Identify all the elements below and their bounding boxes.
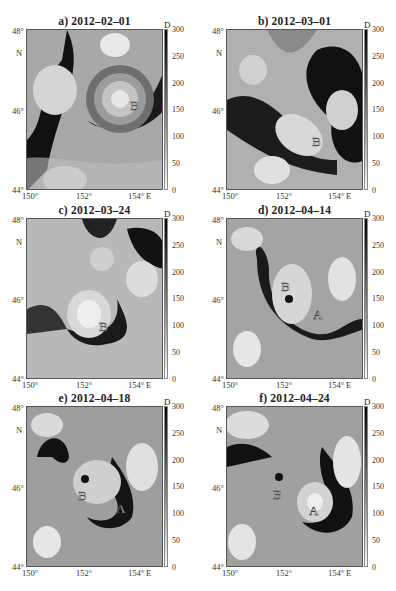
cb-tick: 250 [372, 242, 384, 250]
eddy-label: B [312, 134, 321, 149]
x-unit: E [346, 568, 351, 578]
colorbar [364, 406, 368, 567]
map-c: B [26, 218, 163, 379]
eddy-label: A [313, 307, 323, 322]
y-tick: 48° [212, 403, 224, 413]
map-e: B A [26, 406, 163, 567]
y-tick: 46° [212, 106, 224, 116]
y-tick: 46° [12, 106, 24, 116]
panel-f: f) 2012–04–24 B A D 300 250 200 150 100 … [200, 391, 396, 581]
cb-tick: 0 [372, 187, 376, 195]
cb-tick: 200 [172, 80, 184, 88]
eddy-label: B [78, 488, 87, 503]
x-unit: E [146, 568, 151, 578]
x-tick: 154° [328, 191, 344, 201]
cb-tick: 50 [172, 160, 180, 168]
x-tick: 152° [76, 191, 92, 201]
cb-tick: 300 [172, 26, 184, 34]
x-unit: E [346, 380, 351, 390]
x-tick: 152° [276, 191, 292, 201]
cb-tick: 250 [172, 53, 184, 61]
x-tick: 150° [222, 380, 238, 390]
eddy-label: B [273, 487, 282, 502]
cb-tick: 50 [372, 160, 380, 168]
cb-tick: 300 [372, 26, 384, 34]
y-tick: 48° [12, 26, 24, 36]
x-tick: 150° [222, 568, 238, 578]
cb-tick: 50 [372, 537, 380, 545]
cb-tick: 300 [372, 215, 384, 223]
y-unit: N [216, 48, 222, 58]
cb-tick: 300 [172, 215, 184, 223]
x-tick: 154° [128, 380, 144, 390]
cb-tick: 150 [372, 295, 384, 303]
cb-tick: 150 [172, 483, 184, 491]
colorbar-title: D [364, 209, 371, 219]
cb-tick: 100 [172, 133, 184, 141]
cb-tick: 50 [372, 349, 380, 357]
y-tick: 48° [12, 403, 24, 413]
y-unit: N [216, 425, 222, 435]
panel-title: c) 2012–03–24 [26, 203, 163, 217]
x-tick: 152° [76, 380, 92, 390]
colorbar [364, 218, 368, 379]
y-tick: 46° [12, 295, 24, 305]
colorbar-title: D [164, 397, 171, 407]
cb-tick: 0 [172, 564, 176, 572]
y-tick: 48° [212, 215, 224, 225]
colorbar-title: D [364, 397, 371, 407]
panel-title: d) 2012–04–14 [226, 203, 363, 217]
map-a: B [26, 29, 163, 190]
cb-tick: 100 [172, 322, 184, 330]
cb-tick: 0 [172, 187, 176, 195]
panel-a: a) 2012–02–01 B D 300 250 200 150 100 50… [0, 14, 196, 204]
cb-tick: 300 [172, 403, 184, 411]
colorbar-title: D [364, 20, 371, 30]
x-tick: 152° [76, 568, 92, 578]
colorbar [164, 29, 168, 190]
x-tick: 150° [22, 191, 38, 201]
map-b: B [226, 29, 363, 190]
cb-tick: 100 [372, 322, 384, 330]
y-tick: 46° [12, 483, 24, 493]
cb-tick: 100 [372, 133, 384, 141]
y-unit: N [216, 237, 222, 247]
eddy-label: B [281, 279, 290, 294]
x-tick: 154° [128, 568, 144, 578]
panel-c: c) 2012–03–24 B D 300 250 200 150 100 50… [0, 203, 196, 393]
panel-title: e) 2012–04–18 [26, 391, 163, 405]
cb-tick: 250 [372, 53, 384, 61]
x-tick: 150° [22, 568, 38, 578]
cb-tick: 50 [172, 537, 180, 545]
cb-tick: 50 [172, 349, 180, 357]
cb-tick: 0 [372, 376, 376, 384]
eddy-label: A [116, 501, 126, 516]
eddy-label: B [99, 319, 108, 334]
panel-d: d) 2012–04–14 B A D 300 250 200 150 100 … [200, 203, 396, 393]
y-tick: 48° [212, 26, 224, 36]
cb-tick: 0 [172, 376, 176, 384]
x-tick: 150° [222, 191, 238, 201]
cb-tick: 200 [372, 80, 384, 88]
panel-title: b) 2012–03–01 [226, 14, 363, 28]
colorbar [164, 218, 168, 379]
cb-tick: 200 [372, 457, 384, 465]
x-tick: 154° [328, 380, 344, 390]
colorbar [164, 406, 168, 567]
cb-tick: 150 [372, 483, 384, 491]
panel-e: e) 2012–04–18 B A D 300 250 200 150 100 … [0, 391, 196, 581]
x-unit: E [146, 191, 151, 201]
panel-b: b) 2012–03–01 B D 300 250 200 150 100 50… [200, 14, 396, 204]
x-unit: E [346, 191, 351, 201]
cb-tick: 150 [372, 106, 384, 114]
y-tick: 46° [212, 295, 224, 305]
x-tick: 150° [22, 380, 38, 390]
x-unit: E [146, 380, 151, 390]
y-unit: N [16, 237, 22, 247]
x-tick: 154° [328, 568, 344, 578]
cb-tick: 250 [372, 430, 384, 438]
eddy-label: B [130, 98, 139, 113]
cb-tick: 200 [172, 269, 184, 277]
colorbar-title: D [164, 20, 171, 30]
cb-tick: 150 [172, 295, 184, 303]
